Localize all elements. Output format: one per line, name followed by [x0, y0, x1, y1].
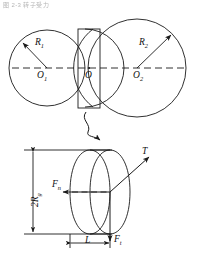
label-torque-t: T: [142, 147, 147, 157]
label-radius-1: R1: [35, 38, 44, 49]
label-force-normal: Fn: [52, 180, 61, 191]
cylinder-detail-group: [24, 150, 149, 248]
label-center-o1: O1: [37, 71, 47, 82]
engineering-figure: [0, 0, 201, 256]
label-center-o2: O2: [133, 71, 143, 82]
center-dot-o: [88, 67, 90, 69]
label-height-2rg: 2Rg: [31, 193, 42, 207]
two-circles-group: [9, 19, 186, 117]
label-force-tangential: Ft: [114, 235, 122, 246]
label-length-l: L: [85, 236, 90, 246]
squiggle-arrow: [84, 112, 100, 140]
label-radius-2: R2: [139, 38, 148, 49]
label-center-o: O: [85, 71, 92, 81]
